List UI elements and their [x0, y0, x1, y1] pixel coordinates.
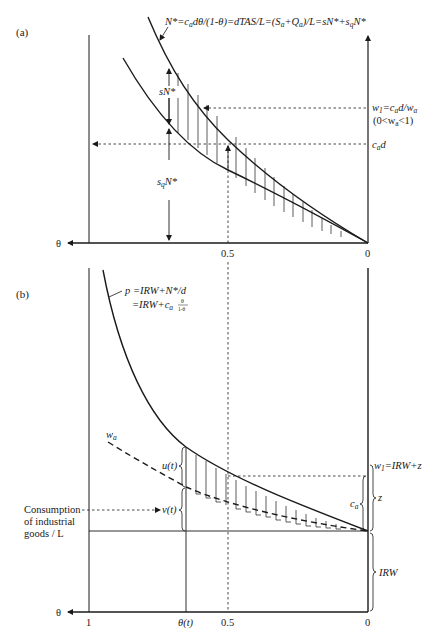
z-brace	[370, 465, 376, 531]
z-label: z	[377, 492, 382, 503]
svg-text:N*=cadθ/(1-θ)=dTAS/L=(Sa+Qa)/L: N*=cadθ/(1-θ)=dTAS/L=(Sa+Qa)/L=sN*+sqN*	[164, 16, 366, 29]
svg-text:θ: θ	[181, 298, 184, 304]
p-equation-line2: =IRW+ca θ 1-θ	[132, 298, 188, 312]
tick-0-b: 0	[365, 617, 370, 628]
n-star-equation: N*=cadθ/(1-θ)=dTAS/L=(Sa+Qa)/L=sN*+sqN*	[164, 16, 366, 29]
u-brace	[179, 447, 185, 487]
consumption-label-line1: Consumption	[24, 504, 81, 515]
panel-a-label: (a)	[16, 26, 29, 39]
v-label: v(t)	[162, 504, 177, 516]
curve-pointer-a	[160, 27, 168, 40]
wa-label: wa	[106, 429, 117, 442]
tick-theta-t: θ(t)	[178, 617, 194, 629]
w1-label-a: w1=cad/wa	[372, 102, 417, 115]
v-brace	[179, 488, 185, 531]
irw-label: IRW	[378, 567, 399, 578]
irw-brace	[370, 533, 376, 611]
p-equation-line1: p =IRW+N*/d	[124, 285, 187, 296]
n-star-curve	[148, 17, 368, 243]
svg-text:=IRW+ca: =IRW+ca	[132, 299, 173, 312]
svg-text:1-θ: 1-θ	[178, 306, 186, 312]
cad-label: cad	[372, 139, 386, 152]
p-curve-pointer	[109, 291, 122, 297]
theta-axis-label-b: θ	[56, 607, 61, 618]
theta-axis-label-a: θ	[56, 238, 61, 249]
economic-diagram: (a) θ	[0, 0, 433, 635]
consumption-label-line3: goods / L	[24, 528, 64, 539]
tick-0.5-a: 0.5	[221, 248, 234, 259]
wa-dashed-curve	[108, 442, 368, 531]
w1-condition: (0<wa<1)	[373, 115, 414, 128]
ca-label: ca	[350, 498, 359, 511]
w1-label-b: w1=IRW+z	[374, 460, 422, 473]
sN-label: sN*	[159, 86, 176, 97]
panel-b-label: (b)	[16, 288, 29, 301]
panel-a: (a) θ	[16, 16, 417, 259]
u-label: u(t)	[162, 460, 178, 472]
ca-brace	[360, 476, 366, 531]
panel-b: (b) θ	[16, 262, 422, 629]
tick-0.5-b: 0.5	[221, 617, 234, 628]
consumption-label-line2: of industrial	[24, 516, 75, 527]
tick-1: 1	[86, 617, 91, 628]
tick-0-a: 0	[365, 248, 370, 259]
